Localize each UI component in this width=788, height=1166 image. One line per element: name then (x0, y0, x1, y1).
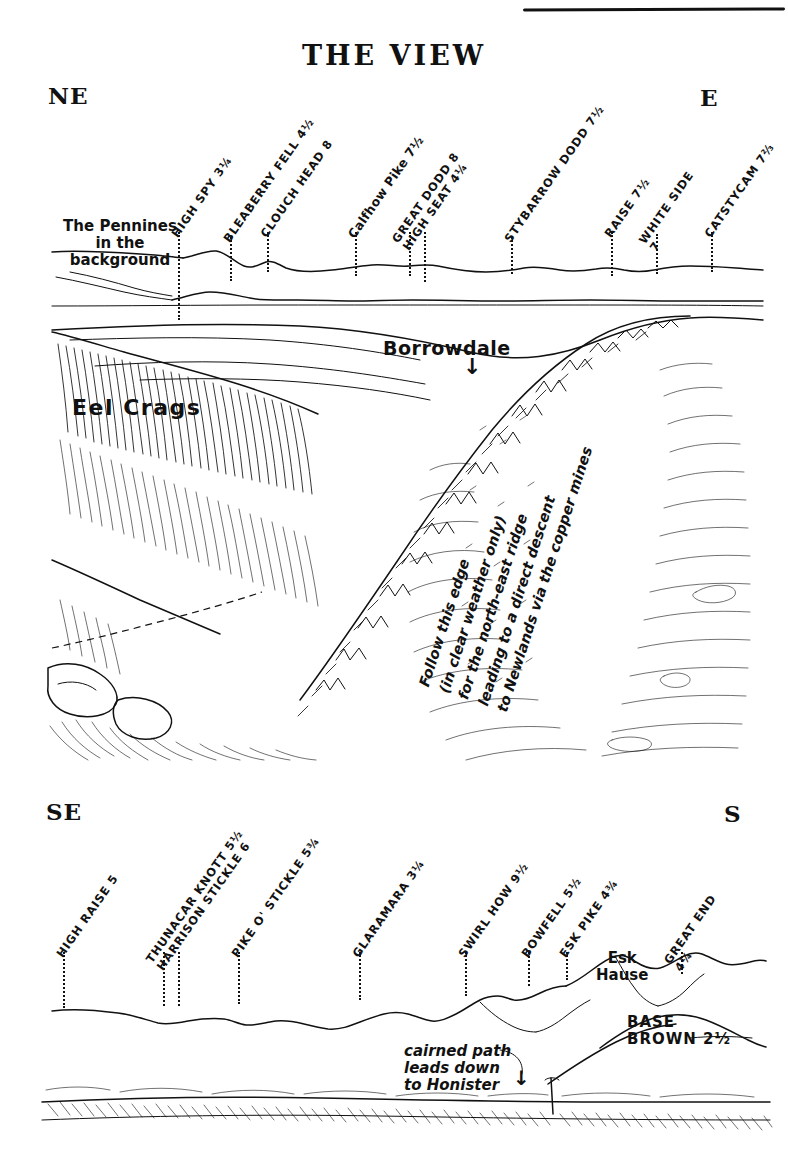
borrowdale-arrow-icon: ↓ (463, 356, 481, 378)
leader-high-seat (424, 232, 426, 282)
leader-catstycam (711, 232, 713, 272)
guide-page: THE VIEW NE E The Pennines in the backgr… (0, 0, 788, 1166)
compass-bearing-se: SE (46, 798, 82, 825)
leader-swirl-how (465, 952, 467, 996)
leader-high-spy (178, 232, 180, 320)
leader-high-raise (63, 952, 65, 1008)
leader-bowfell (528, 952, 530, 986)
leader-white-side (656, 234, 658, 274)
esk-hause-line-1: Esk (596, 950, 648, 967)
leader-great-end (681, 952, 683, 974)
cairned-path-arrow-icon: ↓ (513, 1068, 530, 1088)
base-brown-line-2: BROWN 2½ (627, 1031, 731, 1048)
leader-calfhow-pike (355, 232, 357, 276)
compass-bearing-s: S (724, 800, 742, 827)
leader-clouch-head (267, 232, 269, 272)
base-brown-label: BASE BROWN 2½ (627, 1014, 731, 1047)
leader-esk-pike (566, 952, 568, 980)
cairned-path-line-1: cairned path (404, 1043, 511, 1060)
page-title: THE VIEW (0, 40, 788, 71)
leader-stybarrow-dodd (511, 237, 513, 274)
leader-thunacar-knott (163, 952, 165, 1006)
base-brown-line-1: BASE (627, 1014, 731, 1031)
compass-bearing-e: E (700, 84, 719, 111)
leader-bleaberry-fell (230, 237, 232, 281)
eel-crags-label: Eel Crags (72, 395, 201, 420)
cairned-path-note: cairned path leads down to Honister (404, 1043, 511, 1093)
leader-glaramara (359, 952, 361, 1000)
leader-harrison-stickle (178, 952, 180, 1006)
leader-great-dodd (409, 232, 411, 276)
leader-pike-o-stickle (238, 952, 240, 1004)
pennines-note-line-3: background (50, 252, 190, 269)
cairned-path-line-3: to Honister (404, 1077, 511, 1094)
esk-hause-label: Esk Hause (596, 950, 648, 983)
cairned-path-line-2: leads down (404, 1060, 511, 1077)
leader-raise (611, 232, 613, 276)
compass-bearing-ne: NE (48, 82, 89, 109)
pennines-note-line-2: in the (50, 235, 190, 252)
esk-hause-line-2: Hause (596, 967, 648, 984)
borrowdale-label: Borrowdale (383, 337, 511, 359)
pennines-background-note: The Pennines in the background (50, 218, 190, 268)
